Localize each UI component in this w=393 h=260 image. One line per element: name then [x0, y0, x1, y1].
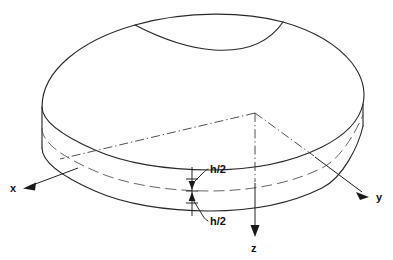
thickness-lower-label: h/2	[210, 215, 226, 227]
plate-midplane-dashed-curve	[42, 115, 363, 191]
x-axis-arrow-line	[30, 168, 78, 186]
thickness-lower-leader-line	[192, 198, 208, 221]
y-axis-arrow-line	[315, 157, 362, 192]
x-axis-hidden-line	[60, 113, 255, 159]
plate-diagram-canvas: h/2 h/2 x y z	[0, 0, 393, 260]
x-axis-label: x	[10, 182, 17, 194]
x-axis-arrowhead	[23, 183, 36, 191]
plate-top-surface-notch	[135, 22, 283, 50]
y-axis-label: y	[376, 191, 383, 203]
plate-top-surface-outline	[42, 14, 364, 170]
z-axis-arrowhead	[251, 225, 260, 237]
thickness-upper-arrowhead	[189, 181, 196, 190]
y-axis-hidden-line	[255, 113, 314, 156]
thickness-upper-leader-line	[192, 169, 208, 184]
thickness-upper-label: h/2	[210, 163, 226, 175]
thickness-lower-arrowhead	[189, 192, 196, 201]
plate-diagram-figure: h/2 h/2 x y z	[0, 0, 393, 260]
z-axis-label: z	[251, 242, 257, 254]
y-axis-arrowhead	[356, 192, 369, 200]
